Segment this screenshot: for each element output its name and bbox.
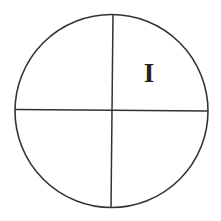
quadrant-circle-diagram: I: [0, 0, 221, 221]
quadrant-label-top-right: I: [144, 58, 155, 88]
horizontal-divider: [15, 110, 208, 112]
